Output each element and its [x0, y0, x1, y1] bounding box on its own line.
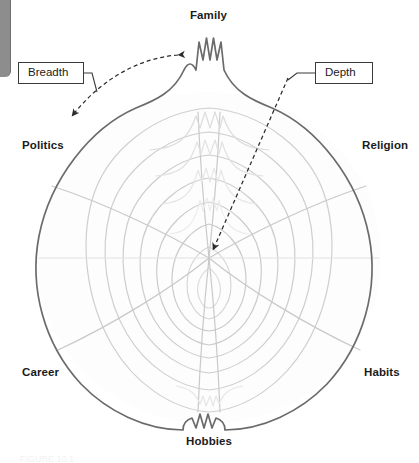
figure-caption: FIGURE 10.1: [20, 454, 400, 462]
axis-label-family: Family: [190, 10, 227, 22]
axis-label-hobbies: Hobbies: [186, 436, 232, 448]
axis-label-career: Career: [22, 367, 59, 379]
axis-label-politics: Politics: [22, 140, 64, 152]
axis-label-religion: Religion: [362, 140, 408, 152]
axis-label-habits: Habits: [364, 367, 400, 379]
callout-depth: Depth: [315, 62, 373, 84]
figure-stage: Family Religion Habits Hobbies Career Po…: [0, 0, 419, 463]
callout-breadth: Breadth: [18, 62, 84, 84]
